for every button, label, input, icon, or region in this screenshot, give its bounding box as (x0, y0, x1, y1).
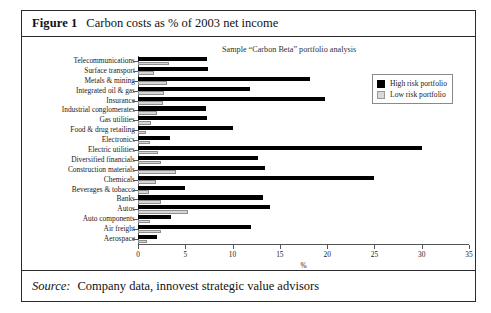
x-axis-tick-label: 25 (371, 250, 378, 259)
y-axis-tick (133, 120, 138, 121)
bar-low-risk (138, 131, 146, 135)
bar-low-risk (138, 151, 158, 155)
bar-row (138, 165, 469, 175)
x-axis-tick-label: 10 (229, 250, 236, 259)
bar-row (138, 234, 469, 244)
category-label: Surface transport (30, 66, 135, 76)
bar-low-risk (138, 121, 151, 125)
bar-row (138, 194, 469, 204)
bar-high-risk (138, 195, 263, 199)
y-axis-tick (133, 180, 138, 181)
bar-low-risk (138, 180, 156, 184)
category-label: Integrated oil & gas (30, 86, 135, 96)
x-axis-tick (327, 245, 328, 249)
category-label: Food & drug retailing (30, 125, 135, 135)
category-label: Gas utilities (30, 115, 135, 125)
bar-row (138, 76, 469, 86)
category-label: Metals & mining (30, 76, 135, 86)
x-axis-tick-label: 15 (276, 250, 283, 259)
category-label: Telecommunications (30, 56, 135, 66)
y-axis-tick (133, 199, 138, 200)
figure-title-bar: Figure 1 Carbon costs as % of 2003 net i… (22, 11, 475, 37)
bar-high-risk (138, 235, 157, 239)
y-axis-tick (133, 101, 138, 102)
bar-high-risk (138, 166, 265, 170)
category-label: Aerospace (30, 234, 135, 244)
y-axis-tick (133, 130, 138, 131)
bar-high-risk (138, 97, 325, 101)
y-axis-tick (133, 81, 138, 82)
category-label: Electric utilities (30, 145, 135, 155)
bar-low-risk (138, 240, 147, 244)
bar-high-risk (138, 126, 233, 130)
x-axis-tick (280, 245, 281, 249)
bar-row (138, 175, 469, 185)
category-label: Banks (30, 194, 135, 204)
bar-high-risk (138, 116, 207, 120)
bar-low-risk (138, 190, 149, 194)
x-axis-tick (422, 245, 423, 249)
bar-row (138, 56, 469, 66)
bar-low-risk (138, 141, 150, 145)
bar-row (138, 224, 469, 234)
bar-high-risk (138, 156, 258, 160)
y-axis-tick (133, 91, 138, 92)
bar-high-risk (138, 106, 206, 110)
category-label: Autos (30, 204, 135, 214)
y-axis-tick (133, 160, 138, 161)
bar-row (138, 105, 469, 115)
category-axis-labels: TelecommunicationsSurface transportMetal… (30, 56, 135, 244)
x-axis-tick (185, 245, 186, 249)
source-text: Company data, innovest strategic value a… (77, 279, 319, 294)
bar-low-risk (138, 62, 169, 66)
y-axis-tick (133, 150, 138, 151)
bar-chart: TelecommunicationsSurface transportMetal… (22, 37, 475, 270)
y-axis-tick (133, 239, 138, 240)
y-axis-tick (133, 190, 138, 191)
bar-row (138, 66, 469, 76)
bar-high-risk (138, 205, 270, 209)
bar-high-risk (138, 146, 422, 150)
bar-row (138, 86, 469, 96)
bar-high-risk (138, 186, 185, 190)
category-label: Electronics (30, 135, 135, 145)
category-label: Auto components (30, 214, 135, 224)
bar-low-risk (138, 101, 163, 105)
figure-number-label: Figure 1 (32, 16, 77, 31)
bar-low-risk (138, 170, 176, 174)
bar-high-risk (138, 225, 251, 229)
bar-high-risk (138, 87, 250, 91)
bar-low-risk (138, 230, 161, 234)
bar-row (138, 115, 469, 125)
bar-low-risk (138, 210, 188, 214)
category-label: Construction materials (30, 165, 135, 175)
bar-high-risk (138, 176, 374, 180)
bar-row (138, 145, 469, 155)
y-axis-tick (133, 209, 138, 210)
category-label: Insurance (30, 96, 135, 106)
bar-high-risk (138, 67, 208, 71)
bar-low-risk (138, 81, 167, 85)
source-label: Source: (32, 279, 70, 294)
bar-row (138, 214, 469, 224)
y-axis-tick (133, 61, 138, 62)
bar-row (138, 96, 469, 106)
category-label: Beverages & tobacco (30, 185, 135, 195)
bar-row (138, 135, 469, 145)
x-axis-tick-label: 30 (418, 250, 425, 259)
bar-row (138, 155, 469, 165)
y-axis-tick (133, 170, 138, 171)
x-axis-tick-label: 20 (323, 250, 330, 259)
y-axis-tick (133, 140, 138, 141)
x-axis-tick (374, 245, 375, 249)
bar-high-risk (138, 136, 170, 140)
bar-low-risk (138, 71, 154, 75)
x-axis-tick-label: 0 (136, 250, 140, 259)
bar-row (138, 125, 469, 135)
x-axis-line (138, 244, 469, 245)
y-axis-tick (133, 219, 138, 220)
bar-row (138, 185, 469, 195)
bar-high-risk (138, 57, 207, 61)
category-label: Air freight (30, 224, 135, 234)
y-axis-tick (133, 229, 138, 230)
